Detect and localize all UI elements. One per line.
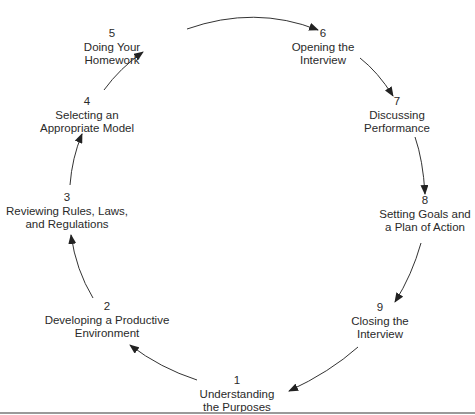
node-label-line1: Developing a Productive (45, 314, 170, 328)
node-5-doing-homework: 5 Doing Your Homework (84, 27, 140, 68)
node-number: 5 (84, 27, 140, 41)
arrow-8-to-9 (395, 243, 421, 302)
arrow-6-to-7 (360, 58, 393, 96)
node-6-opening-interview: 6 Opening the Interview (292, 27, 355, 68)
node-number: 7 (364, 95, 430, 109)
performance-appraisal-cycle-diagram: 1 Understanding the Purposes 2 Developin… (0, 0, 475, 415)
node-number: 8 (379, 194, 470, 208)
arrow-3-to-4 (70, 134, 82, 185)
node-7-discussing-performance: 7 Discussing Performance (364, 95, 430, 136)
arrow-1-to-2 (130, 345, 197, 380)
node-label-line2: and Regulations (6, 218, 128, 232)
node-1-understanding-purposes: 1 Understanding the Purposes (200, 374, 275, 415)
node-number: 3 (6, 191, 128, 205)
node-9-closing-interview: 9 Closing the Interview (351, 301, 409, 342)
arrow-9-to-1 (289, 347, 358, 391)
node-label-line2: Performance (364, 122, 430, 136)
node-3-reviewing-rules: 3 Reviewing Rules, Laws, and Regulations (6, 191, 128, 232)
bottom-divider (0, 412, 475, 414)
node-label-line2: Homework (84, 54, 140, 68)
node-label-line1: Closing the (351, 315, 409, 329)
node-label-line2: Environment (45, 327, 170, 341)
node-label-line1: Understanding (200, 388, 275, 402)
node-label-line2: a Plan of Action (379, 221, 470, 235)
node-2-developing-environment: 2 Developing a Productive Environment (45, 300, 170, 341)
node-label-line2: Interview (351, 328, 409, 342)
node-number: 4 (40, 95, 134, 109)
arrow-2-to-3 (71, 235, 93, 298)
node-label-line2: Appropriate Model (40, 122, 134, 136)
node-label-line1: Discussing (364, 109, 430, 123)
node-label-line1: Doing Your (84, 41, 140, 55)
node-8-setting-goals: 8 Setting Goals and a Plan of Action (379, 194, 470, 235)
node-label-line1: Setting Goals and (379, 208, 470, 222)
node-label-line1: Opening the (292, 41, 355, 55)
node-number: 9 (351, 301, 409, 315)
node-4-selecting-model: 4 Selecting an Appropriate Model (40, 95, 134, 136)
node-label-line1: Reviewing Rules, Laws, (6, 205, 128, 219)
node-label-line2: Interview (292, 54, 355, 68)
node-number: 2 (45, 300, 170, 314)
node-number: 1 (200, 374, 275, 388)
node-label-line1: Selecting an (40, 109, 134, 123)
arrow-7-to-8 (415, 137, 425, 194)
node-number: 6 (292, 27, 355, 41)
